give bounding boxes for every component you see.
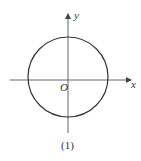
origin-label: O [60, 81, 68, 93]
figure-caption: (1) [61, 139, 74, 152]
coordinate-diagram: y x O (1) [0, 0, 141, 161]
x-axis-label: x [130, 78, 136, 90]
y-axis-label: y [73, 9, 79, 21]
